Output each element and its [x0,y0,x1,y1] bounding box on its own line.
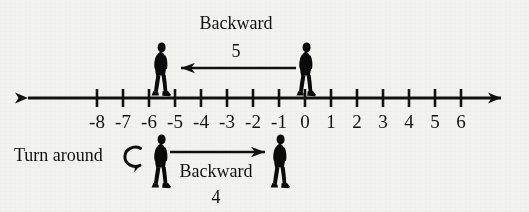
tick-label-6: 6 [456,112,466,131]
tick-label-1: 1 [326,112,336,131]
tick-label-0: 0 [300,112,310,131]
diagram-canvas: Backward 5 -8 -7 -6 -5 -4 -3 -2 -1 0 1 2… [0,0,529,212]
number-line-axis [28,89,501,107]
tick-label-minus-3: -3 [219,112,235,131]
backward-top-label: Backward [200,14,273,32]
tick-label-minus-5: -5 [167,112,183,131]
tick-label-minus-6: -6 [141,112,157,131]
turn-around-label: Turn around [14,146,103,164]
tick-label-minus-2: -2 [245,112,261,131]
turn-around-curved-arrow-icon [125,147,141,166]
tick-label-4: 4 [404,112,414,131]
backward-top-amount: 5 [232,42,241,60]
person-figure-top-at-minus-five [152,42,171,96]
person-figure-top-at-zero [297,42,316,96]
tick-label-minus-1: -1 [271,112,287,131]
tick-label-2: 2 [352,112,362,131]
tick-label-minus-4: -4 [193,112,209,131]
tick-label-minus-8: -8 [89,112,105,131]
person-figure-bottom-at-minus-one [271,134,290,188]
tick-label-minus-7: -7 [115,112,131,131]
tick-label-5: 5 [430,112,440,131]
backward-bottom-amount: 4 [212,188,221,206]
tick-label-3: 3 [378,112,388,131]
person-figure-bottom-at-minus-five [152,134,171,188]
backward-bottom-label: Backward [180,162,253,180]
